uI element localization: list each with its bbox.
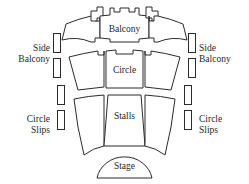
theatre-seating-plan: Balcony Circle Stalls Stage bbox=[0, 0, 249, 184]
slip-bar-left-1[interactable] bbox=[54, 34, 61, 53]
slip-bar-right-2[interactable] bbox=[189, 59, 196, 78]
slip-bar-right-4[interactable] bbox=[185, 111, 192, 130]
seating-plan-canvas: Balcony Circle Stalls Stage bbox=[0, 0, 249, 184]
slip-bar-right-3[interactable] bbox=[185, 86, 192, 105]
stage-area: Stage bbox=[97, 157, 152, 178]
balcony-tier: Balcony bbox=[62, 7, 187, 42]
circle-tier: Circle bbox=[69, 50, 180, 90]
stalls-label: Stalls bbox=[114, 111, 135, 121]
circle-block-right[interactable] bbox=[145, 51, 180, 90]
slip-bar-right-1[interactable] bbox=[189, 34, 196, 53]
balcony-label: Balcony bbox=[109, 24, 141, 34]
stalls-block-right[interactable] bbox=[145, 95, 175, 155]
balcony-block-right[interactable] bbox=[149, 16, 187, 42]
stage-label: Stage bbox=[114, 161, 135, 171]
circle-slips-right-label: Circle Slips bbox=[199, 114, 247, 136]
slip-bar-left-2[interactable] bbox=[54, 59, 61, 78]
slip-bars-right bbox=[185, 34, 196, 130]
circle-slips-left-label: Circle Slips bbox=[2, 114, 50, 136]
circle-label: Circle bbox=[113, 65, 136, 75]
slip-bar-left-4[interactable] bbox=[58, 111, 65, 130]
slip-bar-left-3[interactable] bbox=[58, 86, 65, 105]
side-balcony-right-label: Side Balcony bbox=[199, 43, 247, 65]
circle-block-left[interactable] bbox=[69, 51, 104, 90]
slip-bars-left bbox=[54, 34, 65, 130]
side-balcony-left-label: Side Balcony bbox=[2, 43, 50, 65]
stalls-tier: Stalls bbox=[74, 95, 175, 155]
stalls-block-left[interactable] bbox=[74, 95, 104, 155]
